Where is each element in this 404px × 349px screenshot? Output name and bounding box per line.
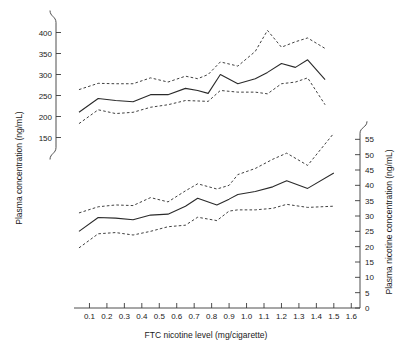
chart-figure: 150200250300350400 051015202530354045505… [0, 0, 404, 349]
y-tick-label-right: 15 [365, 258, 374, 267]
confidence-band-path [79, 30, 325, 89]
series-lines [79, 30, 334, 247]
y-tick-label-right: 30 [365, 212, 374, 221]
y-tick-label-right: 20 [365, 243, 374, 252]
x-tick-label: 0.9 [224, 312, 236, 321]
y-tick-label-left: 400 [39, 29, 53, 38]
y-tick-label-right: 0 [365, 304, 370, 313]
x-tick-label: 0.3 [119, 312, 131, 321]
y-tick-label-left: 200 [39, 113, 53, 122]
right-axis: 0510152025303540455055 [355, 121, 374, 313]
y-tick-label-right: 25 [365, 227, 374, 236]
x-axis: 0.10.20.30.40.50.60.70.80.91.01.11.21.31… [74, 303, 360, 321]
y-axis-left-label: Plasma concentration (ng/mL) [14, 111, 24, 225]
left-axis: 150200250300350400 [39, 11, 61, 160]
y-tick-label-right: 35 [365, 197, 374, 206]
x-tick-label: 0.2 [101, 312, 113, 321]
x-tick-label: 1.2 [276, 312, 288, 321]
y-tick-label-left: 350 [39, 50, 53, 59]
y-tick-label-left: 300 [39, 71, 53, 80]
x-tick-label: 0.4 [136, 312, 148, 321]
x-tick-label: 1.6 [346, 312, 358, 321]
y-tick-label-left: 250 [39, 92, 53, 101]
y-tick-label-right: 55 [365, 135, 374, 144]
y-tick-label-left: 150 [39, 134, 53, 143]
x-tick-label: 0.1 [84, 312, 96, 321]
y-tick-label-right: 50 [365, 151, 374, 160]
line-chart: 150200250300350400 051015202530354045505… [0, 0, 404, 349]
y-axis-right-label: Plasma nicotine concentration (ng/mL) [384, 149, 394, 294]
series-line-path [79, 173, 334, 231]
x-tick-label: 1.4 [311, 312, 323, 321]
y-tick-label-right: 40 [365, 181, 374, 190]
y-tick-label-right: 10 [365, 273, 374, 282]
series-line-path [79, 60, 325, 113]
y-tick-label-right: 5 [365, 289, 370, 298]
x-tick-label: 1.0 [241, 312, 253, 321]
x-tick-label: 0.7 [189, 312, 201, 321]
y-tick-label-right: 45 [365, 166, 374, 175]
x-tick-label: 0.5 [154, 312, 166, 321]
x-tick-label: 0.8 [206, 312, 218, 321]
x-axis-label: FTC nicotine level (mg/cigarette) [145, 330, 268, 340]
x-tick-label: 1.1 [258, 312, 270, 321]
x-tick-label: 1.3 [293, 312, 305, 321]
x-tick-label: 1.5 [328, 312, 340, 321]
confidence-band-path [79, 204, 334, 248]
x-tick-label: 0.6 [171, 312, 183, 321]
